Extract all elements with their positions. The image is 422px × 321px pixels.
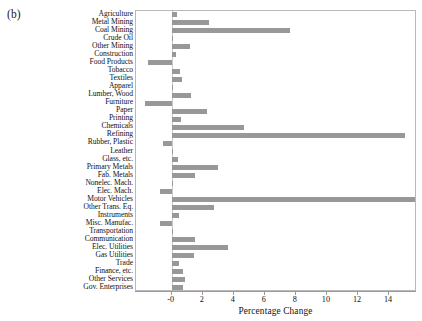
bar <box>172 12 177 17</box>
bar <box>172 229 174 234</box>
bar <box>172 85 173 90</box>
x-tick-label: 12 <box>345 295 369 304</box>
x-axis-line <box>135 291 416 292</box>
bar <box>172 69 181 74</box>
bar <box>145 101 172 106</box>
bar <box>172 237 195 242</box>
bar <box>172 20 209 25</box>
x-tick-label: 2 <box>190 295 214 304</box>
bar <box>148 60 171 65</box>
bar <box>172 44 190 49</box>
figure-panel-b: (b) AgricultureMetal MiningCoal MiningCr… <box>0 0 422 321</box>
x-tick-label: 6 <box>252 295 276 304</box>
bar <box>163 141 172 146</box>
bar <box>172 245 229 250</box>
bar <box>172 181 174 186</box>
panel-label: (b) <box>7 8 21 20</box>
plot-area <box>135 10 416 291</box>
bar <box>172 149 173 154</box>
bar <box>172 197 416 202</box>
bar <box>172 52 176 57</box>
bar <box>172 165 219 170</box>
bar <box>172 277 185 282</box>
bar <box>172 285 184 290</box>
bar <box>172 93 191 98</box>
x-tick-label: 4 <box>221 295 245 304</box>
bar <box>160 221 172 226</box>
bar <box>172 77 182 82</box>
bar <box>172 157 178 162</box>
bar <box>172 253 195 258</box>
bar <box>172 205 214 210</box>
category-label: Gov. Enterprises <box>20 283 133 291</box>
x-tick-label: 10 <box>314 295 338 304</box>
category-axis-labels: AgricultureMetal MiningCoal MiningCrude … <box>20 10 133 291</box>
x-axis-title: Percentage Change <box>135 306 416 316</box>
x-tick-label: 8 <box>283 295 307 304</box>
bar <box>172 133 405 138</box>
bar <box>172 28 291 33</box>
x-tick-label: -0 <box>159 295 183 304</box>
bar <box>172 125 244 130</box>
bar <box>172 261 180 266</box>
bar <box>172 269 184 274</box>
bar <box>172 213 179 218</box>
bar <box>172 109 207 114</box>
bar <box>172 117 181 122</box>
x-tick-label: 14 <box>376 295 400 304</box>
bar <box>172 173 195 178</box>
bar <box>160 189 172 194</box>
bar <box>172 36 174 41</box>
